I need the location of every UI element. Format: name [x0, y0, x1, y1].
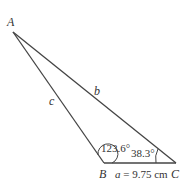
side-c-label: c	[49, 94, 55, 108]
vertex-b-label: B	[99, 167, 107, 181]
side-b-label: b	[94, 84, 100, 98]
triangle-diagram: A B C b c a = 9.75 cm 123.6° 38.3°	[0, 0, 190, 187]
angle-c-arc	[156, 149, 158, 163]
side-a-label: a = 9.75 cm	[115, 168, 168, 180]
vertex-a-label: A	[6, 15, 15, 29]
side-c	[13, 32, 104, 163]
side-a-value: = 9.75 cm	[121, 168, 169, 180]
vertex-c-label: C	[171, 167, 180, 181]
angle-c-label: 38.3°	[131, 147, 155, 159]
angle-b-label: 123.6°	[101, 142, 130, 154]
